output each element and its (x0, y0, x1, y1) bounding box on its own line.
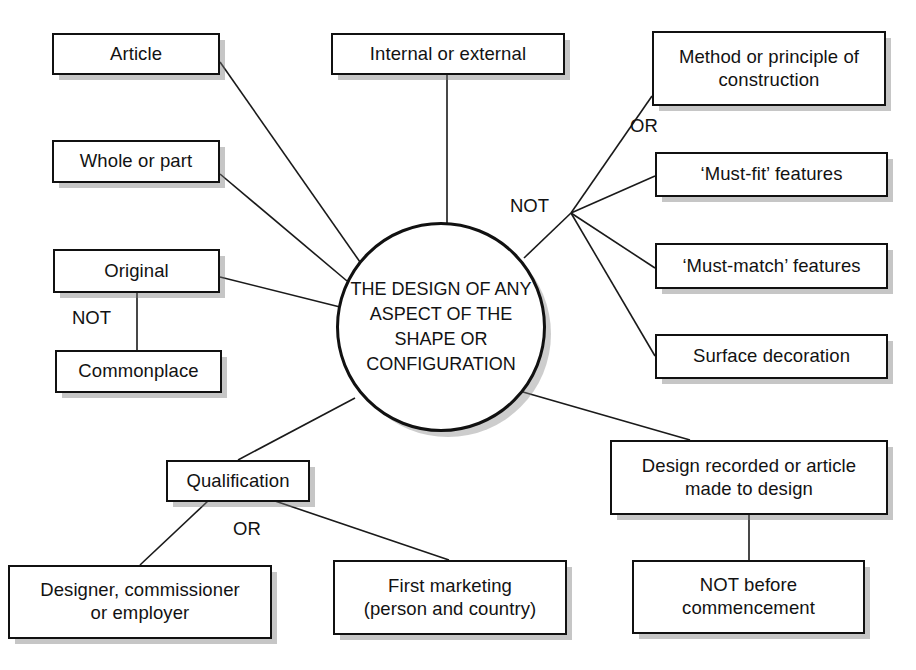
node-must-fit-features[interactable]: ‘Must-fit’ features (655, 152, 888, 197)
node-commonplace-label: Commonplace (72, 360, 204, 383)
node-first-marketing[interactable]: First marketing (person and country) (333, 560, 567, 635)
node-must-match-label: ‘Must-match’ features (676, 255, 866, 278)
hub-line-4: CONFIGURATION (366, 354, 516, 374)
hub-line-1: THE DESIGN OF (350, 279, 490, 299)
node-commonplace[interactable]: Commonplace (55, 350, 222, 393)
connector-label-or-qualification: OR (233, 518, 261, 540)
node-whole-or-part[interactable]: Whole or part (52, 140, 220, 183)
link-not-must-fit (571, 176, 655, 213)
node-method-line-2: construction (673, 69, 865, 92)
node-qualification-label: Qualification (180, 470, 295, 493)
connector-label-not-commonplace: NOT (72, 307, 111, 329)
node-designer-label: Designer, commissioner or employer (28, 579, 252, 624)
node-internal-or-external-label: Internal or external (364, 43, 532, 66)
connector-label-or-exclusions: OR (630, 115, 658, 137)
node-designer-commissioner-or-employer[interactable]: Designer, commissioner or employer (8, 565, 272, 639)
node-internal-or-external[interactable]: Internal or external (331, 33, 565, 75)
node-not-before-line-1: NOT before (676, 574, 821, 597)
connector-label-not-exclusions: NOT (510, 195, 549, 217)
node-article[interactable]: Article (52, 33, 220, 75)
node-first-marketing-line-1: First marketing (358, 575, 543, 598)
node-design-recorded-line-1: Design recorded or article (636, 455, 862, 478)
node-surface-decoration[interactable]: Surface decoration (655, 334, 888, 379)
link-qualification-first-marketing (275, 501, 449, 560)
node-design-recorded-or-article-made-to-design[interactable]: Design recorded or article made to desig… (610, 440, 888, 515)
link-hub-qualification (238, 398, 355, 460)
link-article-hub (220, 62, 360, 262)
node-whole-or-part-label: Whole or part (74, 150, 198, 173)
node-not-before-line-2: commencement (676, 597, 821, 620)
hub-node: THE DESIGN OF ANY ASPECT OF THE SHAPE OR… (336, 222, 546, 432)
link-hub-not-junction (524, 213, 571, 258)
link-not-method-construction (571, 96, 652, 213)
node-method-or-principle-of-construction[interactable]: Method or principle of construction (652, 31, 886, 106)
link-not-surface-decoration (571, 213, 655, 356)
node-first-marketing-label: First marketing (person and country) (352, 575, 549, 620)
node-surface-decoration-label: Surface decoration (687, 345, 856, 368)
node-designer-line-1: Designer, commissioner (34, 579, 246, 602)
link-hub-design-recorded (523, 392, 690, 440)
node-must-match-features[interactable]: ‘Must-match’ features (655, 243, 888, 289)
node-not-before-commencement[interactable]: NOT before commencement (632, 560, 865, 634)
diagram-canvas: THE DESIGN OF ANY ASPECT OF THE SHAPE OR… (0, 0, 916, 670)
link-qualification-designer (140, 501, 208, 565)
node-designer-line-2: or employer (34, 602, 246, 625)
node-not-before-commencement-label: NOT before commencement (670, 574, 827, 619)
node-original-label: Original (98, 260, 175, 283)
node-qualification[interactable]: Qualification (166, 460, 310, 502)
node-article-label: Article (104, 43, 168, 66)
link-not-must-match (571, 213, 655, 268)
node-first-marketing-line-2: (person and country) (358, 598, 543, 621)
node-design-recorded-line-2: made to design (636, 478, 862, 501)
link-original-hub (220, 277, 340, 307)
node-design-recorded-label: Design recorded or article made to desig… (630, 455, 868, 500)
node-method-label: Method or principle of construction (667, 46, 871, 91)
link-whole-or-part-hub (220, 174, 347, 281)
node-method-line-1: Method or principle of (673, 46, 865, 69)
node-original[interactable]: Original (53, 249, 220, 293)
hub-label: THE DESIGN OF ANY ASPECT OF THE SHAPE OR… (339, 277, 543, 376)
node-must-fit-label: ‘Must-fit’ features (694, 163, 848, 186)
